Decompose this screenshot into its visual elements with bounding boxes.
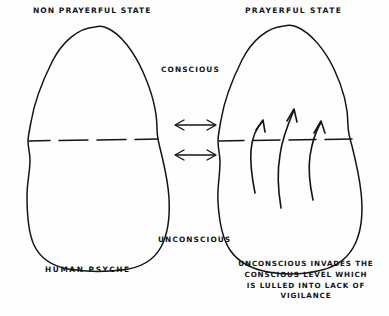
- left-psyche-outline: [27, 26, 169, 271]
- right-divider-dash-4: [325, 139, 352, 140]
- label-human-psyche: HUMAN PSYCHE: [45, 266, 131, 274]
- caption-line-1: UNCONSCIOUS INVADES THE: [226, 259, 386, 270]
- title-non-prayerful-state: NON PRAYERFUL STATE: [33, 7, 151, 15]
- caption-line-2: CONSCIOUS LEVEL WHICH: [226, 270, 386, 281]
- right-conscious-unconscious-divider: [219, 141, 244, 142]
- left-divider-dash-2: [59, 140, 88, 141]
- caption-line-4: VIGILANCE: [226, 291, 386, 302]
- title-prayerful-state: PRAYERFUL STATE: [245, 7, 342, 15]
- caption-line-3: IS LULLED INTO LACK OF: [226, 281, 386, 292]
- upward-arrow-left-head: [256, 120, 265, 132]
- upward-arrow-middle: [278, 110, 294, 208]
- upward-arrow-left: [251, 121, 263, 193]
- left-conscious-unconscious-divider: [29, 141, 50, 142]
- left-divider-dash-3: [97, 140, 126, 141]
- label-unconscious: UNCONSCIOUS: [158, 236, 231, 244]
- diagram-canvas: NON PRAYERFUL STATE PRAYERFUL STATE CONS…: [0, 0, 389, 316]
- label-conscious: CONSCIOUS: [161, 66, 220, 74]
- right-psyche-outline: [218, 25, 362, 273]
- upward-arrow-right-head: [314, 121, 325, 133]
- left-divider-dash-4: [135, 139, 158, 140]
- upward-arrow-right: [309, 122, 321, 200]
- right-divider-dash-3: [289, 140, 316, 141]
- right-divider-dash-2: [253, 140, 280, 141]
- caption-block: UNCONSCIOUS INVADES THE CONSCIOUS LEVEL …: [226, 259, 386, 302]
